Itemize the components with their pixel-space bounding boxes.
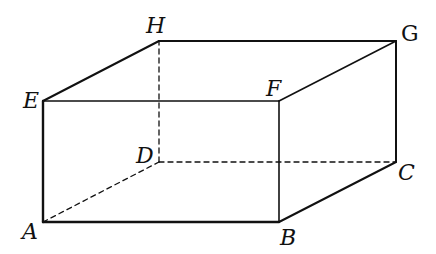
vertex-label-C: C bbox=[398, 160, 415, 185]
prism-svg: H G E F D C A B bbox=[0, 0, 436, 254]
vertex-label-G: G bbox=[401, 21, 419, 46]
vertex-label-E: E bbox=[22, 88, 39, 113]
vertex-label-F: F bbox=[265, 76, 282, 101]
vertex-label-D: D bbox=[135, 143, 154, 168]
vertex-label-B: B bbox=[279, 225, 296, 250]
vertex-label-H: H bbox=[145, 13, 166, 38]
edge-AD bbox=[43, 162, 159, 222]
prism-diagram: H G E F D C A B bbox=[0, 0, 436, 254]
edge-HE bbox=[43, 41, 159, 101]
edge-BC bbox=[279, 162, 396, 222]
vertex-label-A: A bbox=[20, 219, 38, 244]
edge-FG bbox=[279, 41, 396, 101]
